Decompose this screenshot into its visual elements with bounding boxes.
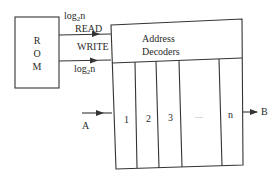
column-n-label: n [228, 110, 233, 120]
column-divider-2 [156, 61, 159, 168]
column-ellipsis-label: .... [195, 112, 203, 120]
column-divider-4 [219, 59, 222, 166]
address-decoders-title: Address Decoders [142, 32, 180, 58]
top-bus-label: log2n [64, 11, 85, 23]
input-arrow-icon [96, 110, 104, 116]
column-3-label: 3 [168, 113, 173, 123]
column-1-label: 1 [124, 115, 129, 125]
rom-label: R O M [15, 17, 59, 88]
bottom-bus-label: log2n [74, 64, 95, 76]
address-decoder-divider [112, 58, 242, 63]
rom-letter-o: O [15, 48, 59, 59]
output-arrow-icon [250, 109, 258, 115]
column-divider-3 [179, 61, 182, 167]
input-a-label: A [82, 121, 89, 131]
column-divider-1 [135, 62, 137, 168]
read-label: READ [75, 24, 102, 34]
rom-letter-r: R [15, 35, 59, 46]
write-line [59, 60, 111, 61]
read-line [59, 34, 111, 35]
rom-letter-m: M [15, 61, 59, 72]
column-2-label: 2 [146, 114, 151, 124]
write-label: WRITE [77, 42, 109, 52]
output-b-label: B [261, 107, 268, 117]
